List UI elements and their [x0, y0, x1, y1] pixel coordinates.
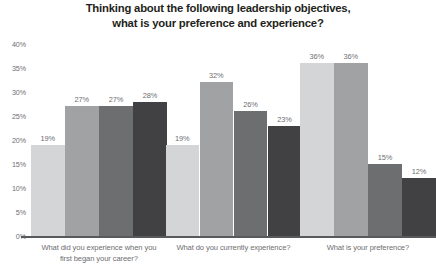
- category-label-line: first began your career?: [21, 254, 177, 265]
- bar-value-label: 19%: [175, 134, 190, 143]
- bar-g2-s2[interactable]: 32%: [200, 82, 234, 236]
- bar-value-label: 28%: [143, 91, 158, 100]
- bar-chart: Thinking about the following leadership …: [0, 0, 436, 280]
- bar-value-label: 36%: [344, 52, 359, 61]
- bar-group-3: 36%36%15%12%: [300, 44, 436, 236]
- category-label-3: What is your preference?: [290, 243, 436, 254]
- chart-title-line-2: what is your preference and experience?: [0, 16, 436, 31]
- bar-g3-s4[interactable]: 12%: [402, 178, 436, 236]
- bar-g3-s1[interactable]: 36%: [300, 63, 334, 236]
- category-label-line: What did you experience when you: [21, 243, 177, 254]
- bar-g2-s3[interactable]: 26%: [234, 111, 268, 236]
- category-label-line: What is your preference?: [290, 243, 436, 254]
- bar-g1-s3[interactable]: 27%: [99, 106, 133, 236]
- y-axis-tick-10pct: 10%: [12, 184, 26, 193]
- bar-value-label: 27%: [75, 95, 90, 104]
- bar-value-label: 12%: [412, 167, 427, 176]
- bar-value-label: 15%: [378, 153, 393, 162]
- bar-g3-s2[interactable]: 36%: [334, 63, 368, 236]
- bar-value-label: 27%: [109, 95, 124, 104]
- x-axis-line: [21, 236, 436, 238]
- bar-g3-s3[interactable]: 15%: [368, 164, 402, 236]
- category-label-1: What did you experience when youfirst be…: [21, 243, 177, 264]
- chart-title-line-1: Thinking about the following leadership …: [0, 1, 436, 16]
- bar-group-1: 19%27%27%28%: [31, 44, 167, 236]
- bar-value-label: 32%: [209, 71, 224, 80]
- bar-g1-s2[interactable]: 27%: [65, 106, 99, 236]
- y-axis-tick-15pct: 15%: [12, 160, 26, 169]
- bar-group-2: 19%32%26%23%: [166, 44, 302, 236]
- bar-g2-s1[interactable]: 19%: [166, 145, 200, 236]
- chart-title: Thinking about the following leadership …: [0, 1, 436, 31]
- bar-value-label: 36%: [310, 52, 325, 61]
- category-label-line: What do you currently experience?: [156, 243, 312, 254]
- bar-value-label: 23%: [277, 115, 292, 124]
- bar-value-label: 26%: [243, 100, 258, 109]
- plot-area: 0%5%10%15%20%25%30%35%40% 19%27%27%28%19…: [31, 44, 436, 236]
- y-axis-tick-20pct: 20%: [12, 136, 26, 145]
- bar-g1-s1[interactable]: 19%: [31, 145, 65, 236]
- y-axis-tick-35pct: 35%: [12, 64, 26, 73]
- y-axis-tick-30pct: 30%: [12, 88, 26, 97]
- bar-g2-s4[interactable]: 23%: [268, 126, 302, 236]
- y-axis-tick-40pct: 40%: [12, 40, 26, 49]
- y-axis-tick-5pct: 5%: [16, 208, 26, 217]
- bar-g1-s4[interactable]: 28%: [133, 102, 167, 236]
- y-axis-tick-25pct: 25%: [12, 112, 26, 121]
- bar-value-label: 19%: [41, 134, 56, 143]
- category-label-2: What do you currently experience?: [156, 243, 312, 254]
